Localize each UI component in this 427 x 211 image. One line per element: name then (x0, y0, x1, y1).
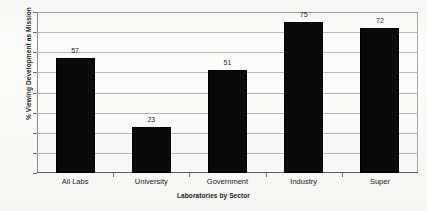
x-category-label: Government (188, 178, 268, 186)
y-axis-title: % Viewing Development as Mission (25, 0, 32, 144)
bar-chart-screenshot: % Viewing Development as Mission 8070605… (0, 0, 427, 211)
y-tick-mark (33, 113, 37, 114)
plot-border-top (37, 12, 418, 13)
bar (208, 70, 247, 173)
y-tick-mark (33, 173, 37, 174)
x-category-label: Industry (264, 178, 344, 186)
y-tick-mark (33, 93, 37, 94)
y-tick-mark (33, 52, 37, 53)
x-tick-mark (342, 173, 343, 177)
bar-value-label: 57 (55, 47, 95, 54)
x-category-label: All Labs (35, 178, 115, 186)
x-category-label: Super (340, 178, 420, 186)
x-tick-mark (113, 173, 114, 177)
bar (284, 22, 323, 173)
bar (56, 58, 95, 173)
y-tick-mark (33, 133, 37, 134)
y-tick-mark (33, 153, 37, 154)
bar-value-label: 72 (360, 17, 400, 24)
plot-area: 80706050403020100 5723517572 (37, 12, 418, 173)
y-tick-mark (33, 32, 37, 33)
y-tick-mark (33, 12, 37, 13)
x-tick-mark (266, 173, 267, 177)
x-tick-mark (189, 173, 190, 177)
y-tick-mark (33, 72, 37, 73)
x-category-label: University (111, 178, 191, 186)
x-axis-title: Laboratories by Sector (0, 192, 427, 199)
bar (132, 127, 171, 173)
bar-value-label: 23 (131, 116, 171, 123)
bar-value-label: 75 (284, 11, 324, 18)
bar (360, 28, 399, 173)
bar-value-label: 51 (208, 59, 248, 66)
